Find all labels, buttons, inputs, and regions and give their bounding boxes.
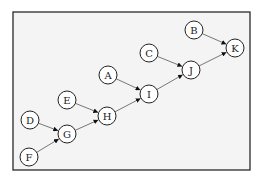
node-label: I xyxy=(147,89,151,100)
node-j: J xyxy=(182,61,200,79)
node-label: A xyxy=(103,70,112,81)
node-label: G xyxy=(63,129,71,140)
node-label: E xyxy=(63,95,70,106)
diagram-frame xyxy=(13,12,250,170)
node-b: B xyxy=(185,21,203,39)
node-d: D xyxy=(21,111,39,129)
node-e: E xyxy=(58,91,76,109)
node-label: J xyxy=(188,65,193,76)
node-label: H xyxy=(103,111,112,122)
node-f: F xyxy=(20,148,38,166)
node-c: C xyxy=(140,44,158,62)
node-h: H xyxy=(98,107,116,125)
node-a: A xyxy=(99,66,117,84)
node-label: F xyxy=(26,152,33,163)
node-label: B xyxy=(190,25,197,36)
node-label: D xyxy=(26,115,34,126)
node-label: C xyxy=(145,48,153,59)
node-g: G xyxy=(58,125,76,143)
node-label: K xyxy=(231,43,239,54)
node-i: I xyxy=(140,85,158,103)
graph-canvas: ABCDEFGHIJK xyxy=(0,0,264,180)
node-k: K xyxy=(226,39,244,57)
